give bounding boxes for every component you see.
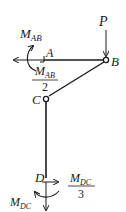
frame-diagram: P A B C D MAB MAB 2 MDC 3 MDC bbox=[0, 0, 126, 212]
load-p-label: P bbox=[98, 14, 108, 29]
support-a-tick-icon bbox=[40, 56, 44, 62]
moment-dc-third-numerator: MDC bbox=[69, 171, 92, 187]
node-d-label: D bbox=[34, 170, 45, 185]
moment-ab-label: MAB bbox=[19, 26, 42, 43]
moment-dc-third-denominator: 3 bbox=[78, 187, 84, 201]
moment-d-arc-icon bbox=[35, 191, 59, 197]
hinge-c-icon bbox=[43, 96, 48, 101]
moment-ab-half-denominator: 2 bbox=[42, 80, 48, 94]
hinge-b-icon bbox=[103, 57, 108, 62]
node-b-label: B bbox=[111, 54, 119, 69]
moment-ab-half-numerator: MAB bbox=[34, 64, 55, 80]
node-c-label: C bbox=[32, 92, 41, 107]
member-bc bbox=[49, 62, 104, 96]
moment-dc-label: MDC bbox=[9, 195, 32, 211]
node-a-label: A bbox=[45, 46, 54, 60]
